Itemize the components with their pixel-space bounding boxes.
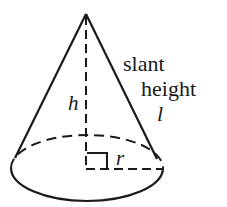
base-front-arc [11,168,163,201]
cone-diagram: h r slant height l [0,0,227,207]
cone-left-edge [15,14,86,158]
height-label: h [68,91,79,115]
slant-symbol-label: l [157,101,163,126]
slant-label-line2: height [141,76,196,101]
right-angle-marker [87,153,107,169]
slant-label-line1: slant [123,51,165,76]
radius-label: r [116,146,125,170]
